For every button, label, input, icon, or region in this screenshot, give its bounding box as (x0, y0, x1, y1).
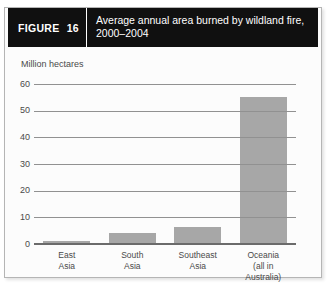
gridline-60 (34, 84, 296, 85)
figure-frame: FIGURE 16 Average annual area burned by … (4, 7, 322, 278)
figure-title: Average annual area burned by wildland f… (87, 8, 318, 47)
gridline-50 (34, 111, 296, 112)
x-label-south-asia: South Asia (121, 250, 143, 272)
x-label-oceania-all-in-australia: Oceania (all in Australia) (234, 250, 292, 283)
gridline-30 (34, 164, 296, 165)
gridline-20 (34, 191, 296, 192)
y-tick-label-20: 20 (5, 185, 30, 195)
gridline-40 (34, 137, 296, 138)
x-axis-line (34, 243, 296, 245)
x-label-southeast-asia: Southeast Asia (179, 250, 217, 272)
y-tick-label-50: 50 (5, 105, 30, 115)
figure-number-label: FIGURE 16 (8, 8, 86, 47)
x-label-east-asia: East Asia (58, 250, 75, 272)
y-tick-label-0: 0 (5, 239, 30, 249)
bar-oceania-all-in-australia (240, 97, 287, 244)
y-tick-label-10: 10 (5, 212, 30, 222)
y-tick-label-40: 40 (5, 132, 30, 142)
y-tick-label-60: 60 (5, 79, 30, 89)
figure-16-panel: FIGURE 16 Average annual area burned by … (0, 0, 329, 286)
bar-southeast-asia (174, 227, 221, 244)
gridline-10 (34, 217, 296, 218)
y-axis-unit-label: Million hectares (21, 59, 84, 69)
y-tick-label-30: 30 (5, 159, 30, 169)
figure-header: FIGURE 16 Average annual area burned by … (8, 8, 318, 47)
bar-chart: Million hectares 0102030405060East AsiaS… (5, 47, 321, 277)
